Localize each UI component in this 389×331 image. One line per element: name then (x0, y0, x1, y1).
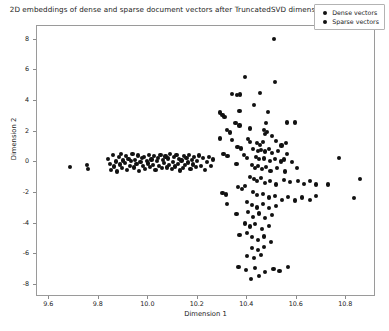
data-point (149, 157, 153, 161)
data-point (153, 168, 157, 172)
data-point (262, 245, 266, 249)
data-point (274, 204, 278, 208)
data-point (234, 212, 238, 216)
data-point (286, 265, 290, 269)
data-point (282, 157, 286, 161)
data-point (272, 37, 276, 41)
data-point (267, 206, 271, 210)
data-point (243, 75, 247, 79)
data-point (274, 139, 278, 143)
y-axis-tick (33, 69, 36, 70)
y-axis-label: Dimension 2 (10, 94, 18, 184)
data-point (143, 167, 147, 171)
x-axis-label: Dimension 1 (36, 310, 375, 318)
data-point (147, 153, 151, 157)
y-axis-tick (33, 131, 36, 132)
x-axis-tick (345, 296, 346, 299)
data-point (230, 138, 234, 142)
data-point (249, 277, 253, 281)
y-axis-tick (33, 192, 36, 193)
data-point (245, 200, 249, 204)
data-point (171, 160, 175, 164)
data-point (137, 169, 141, 173)
y-axis-tick (33, 223, 36, 224)
data-point (259, 253, 263, 257)
data-point (120, 166, 124, 170)
data-point (123, 161, 127, 165)
y-axis-tick-label: -6 (0, 249, 29, 257)
data-point (263, 216, 267, 220)
data-point (209, 164, 213, 168)
data-point (262, 156, 266, 160)
data-point (255, 193, 259, 197)
data-point (279, 143, 283, 147)
data-point (251, 147, 255, 151)
x-axis-tick-label: 9.6 (28, 300, 68, 308)
data-point (314, 182, 318, 186)
data-point (266, 110, 270, 114)
data-point (314, 194, 318, 198)
data-point (253, 222, 257, 226)
data-point (106, 157, 110, 161)
data-point (268, 179, 272, 183)
data-point (244, 268, 248, 272)
data-point (199, 164, 203, 168)
data-point (308, 198, 312, 202)
data-point (238, 92, 242, 96)
data-point (111, 153, 115, 157)
data-point (264, 165, 268, 169)
data-point (245, 156, 249, 160)
data-point (243, 184, 247, 188)
data-point (268, 159, 272, 163)
y-axis-tick (33, 100, 36, 101)
legend-label-dense: Dense vectors (330, 9, 377, 16)
scatter-plot-figure: 2D embeddings of dense and sparse docume… (0, 0, 389, 331)
data-point (222, 115, 226, 119)
data-point (268, 169, 272, 173)
plot-area (36, 25, 375, 296)
data-point (166, 156, 170, 160)
legend-item-sparse: Sparse vectors (319, 17, 379, 26)
data-point (275, 166, 279, 170)
y-axis-tick (33, 161, 36, 162)
data-point (285, 152, 289, 156)
data-point (195, 159, 199, 163)
data-point (284, 141, 288, 145)
y-axis-tick (33, 39, 36, 40)
data-point (285, 120, 289, 124)
data-point (267, 147, 271, 151)
data-point (283, 169, 287, 173)
data-point (270, 151, 274, 155)
data-point (256, 248, 260, 252)
data-point (228, 130, 232, 134)
x-axis-tick (197, 296, 198, 299)
data-point (205, 160, 209, 164)
data-point (86, 167, 90, 171)
data-point (201, 156, 205, 160)
x-axis-tick-label: 9.8 (78, 300, 118, 308)
data-point (194, 165, 198, 169)
sparse-marker-icon (319, 20, 330, 24)
y-axis-tick (33, 253, 36, 254)
data-point (230, 92, 234, 96)
data-point (273, 157, 277, 161)
data-point (250, 235, 254, 239)
data-point (250, 246, 254, 250)
data-point (256, 238, 260, 242)
data-points-layer (37, 26, 374, 295)
data-point (237, 233, 241, 237)
data-point (358, 177, 362, 181)
data-point (125, 168, 129, 172)
y-axis-tick-label: -8 (0, 280, 29, 288)
y-axis-tick-label: -2 (0, 188, 29, 196)
data-point (130, 152, 134, 156)
data-point (234, 162, 238, 166)
data-point (225, 202, 229, 206)
legend-item-dense: Dense vectors (319, 8, 379, 17)
data-point (179, 158, 183, 162)
data-point (252, 103, 256, 107)
data-point (269, 240, 273, 244)
data-point (265, 130, 269, 134)
data-point (253, 266, 257, 270)
data-point (255, 205, 259, 209)
